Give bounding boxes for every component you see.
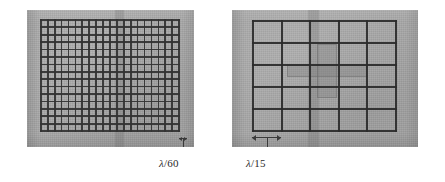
lambda-divisor: /60 [164,157,179,169]
lambda-over-15-label: λ/15 [246,157,266,169]
lambda-over-60-label: λ/60 [159,157,179,169]
fine-mesh-panel [27,10,194,147]
panel-photo-background [232,10,418,147]
coarse-mesh-panel [232,10,418,147]
lambda-divisor: /15 [251,157,266,169]
panel-photo-background [27,10,194,147]
figure-root: λ/60 λ/15 [0,0,445,182]
